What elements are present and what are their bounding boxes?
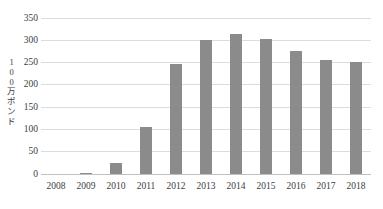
x-tick-label-2016: 2016 [279,181,313,192]
x-tick-label-2018: 2018 [339,181,373,192]
x-tick-label-2010: 2010 [99,181,133,192]
x-tick-label-2009: 2009 [69,181,103,192]
x-tick-label-2017: 2017 [309,181,343,192]
x-axis-labels: 2008200920102011201220132014201520162017… [0,0,383,209]
x-tick-label-2015: 2015 [249,181,283,192]
x-tick-label-2008: 2008 [39,181,73,192]
x-tick-label-2012: 2012 [159,181,193,192]
bar-chart: 100万ポンド 050100150200250300350 2008200920… [0,0,383,209]
x-tick-label-2011: 2011 [129,181,163,192]
x-tick-label-2014: 2014 [219,181,253,192]
x-tick-label-2013: 2013 [189,181,223,192]
